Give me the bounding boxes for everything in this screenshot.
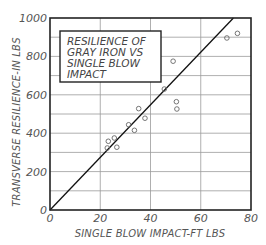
y-tick-label: 0 — [40, 204, 47, 217]
scatter-chart: RESILIENCE OF GRAY IRON VS SINGLE BLOW I… — [0, 0, 266, 245]
y-axis-ticks: 02004006008001000 — [19, 12, 47, 217]
data-point-circle — [225, 36, 230, 41]
data-point-circle — [235, 31, 240, 36]
data-point-circle — [126, 122, 131, 127]
y-tick-label: 600 — [26, 89, 47, 102]
data-point-circle — [106, 139, 111, 144]
data-point-circle — [132, 128, 137, 133]
y-tick-label: 1000 — [19, 12, 47, 25]
data-point-circle — [143, 116, 148, 121]
data-point-circle — [174, 99, 179, 104]
data-point-circle — [115, 145, 120, 150]
y-tick-label: 400 — [26, 127, 47, 140]
title-box: RESILIENCE OF GRAY IRON VS SINGLE BLOW I… — [60, 31, 161, 82]
x-axis-label: SINGLE BLOW IMPACT-FT LBS — [75, 228, 226, 239]
x-tick-label: 40 — [144, 212, 158, 225]
x-axis-ticks: 020406080 — [47, 212, 259, 225]
x-tick-label: 60 — [194, 212, 208, 225]
x-tick-label: 20 — [93, 212, 107, 225]
y-axis-label: TRANSVERSE RESILIENCE-IN LBS — [11, 37, 22, 207]
data-point-circle — [175, 107, 180, 112]
x-tick-label: 80 — [244, 212, 258, 225]
data-point-circle — [112, 136, 117, 141]
data-point-circle — [136, 106, 141, 111]
y-tick-label: 800 — [26, 50, 47, 63]
x-tick-label: 0 — [47, 212, 54, 225]
chart-canvas: RESILIENCE OF GRAY IRON VS SINGLE BLOW I… — [0, 0, 266, 245]
title-line-4: IMPACT — [67, 68, 107, 80]
y-tick-label: 200 — [26, 166, 47, 179]
data-point-circle — [171, 59, 176, 64]
